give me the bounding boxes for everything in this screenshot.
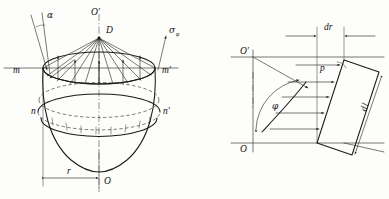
inclined-resultant-arrow (50, 60, 74, 78)
alpha-direction-arrow (31, 15, 47, 70)
ring-band-segments (52, 117, 150, 134)
label-right-bottom-o: O (240, 144, 247, 154)
label-apex-top-oprime: O′ (91, 7, 101, 17)
label-element-width-dr: dr (324, 22, 333, 32)
element-base-extension (344, 143, 384, 152)
radius-ray-line (253, 57, 308, 88)
label-ring-right-nprime: n′ (163, 106, 171, 116)
alpha-tangent-line (42, 13, 50, 74)
element-force-panel (231, 27, 384, 155)
dl-dimension-line (355, 78, 381, 154)
label-rim-left-m: m (13, 65, 20, 75)
label-pressure-p: p (319, 63, 325, 73)
label-sigma-phi-subscript: φ (176, 31, 180, 37)
label-apex-point-d: D (105, 25, 113, 35)
inclined-element-rect (317, 60, 379, 155)
label-origin-o: O (104, 176, 111, 186)
label-sigma-phi: σ (169, 25, 176, 35)
label-radius-r: r (67, 166, 71, 176)
pressure-arrows-p (270, 65, 340, 129)
paraboloid-vessel-panel: α O′ D σ φ m m′ n n′ r O (0, 0, 389, 199)
label-alpha: α (47, 10, 53, 20)
label-right-top-oprime: O′ (240, 46, 250, 56)
label-rim-right-mprime: m′ (162, 65, 172, 75)
right-figure-labels: O′ O dr p φ d l (240, 22, 371, 154)
label-ring-left-n: n (31, 106, 36, 116)
label-angle-phi: φ (272, 101, 279, 111)
meridian-curve (262, 82, 306, 132)
left-figure-geometry (4, 13, 178, 192)
apex-point-marker (98, 37, 101, 40)
figure-root: α O′ D σ φ m m′ n n′ r O (0, 0, 389, 199)
